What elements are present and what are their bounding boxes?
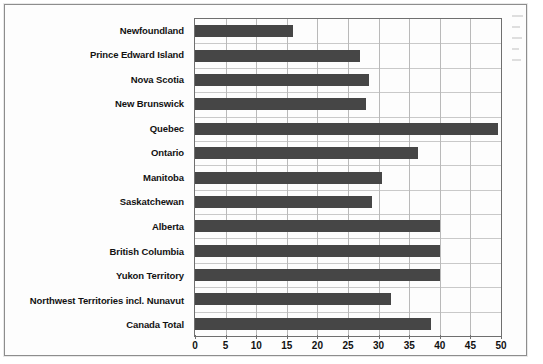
x-tick-label: 30 (373, 340, 384, 351)
x-tick-mark (287, 335, 288, 339)
bar-chart: NewfoundlandPrince Edward IslandNova Sco… (0, 0, 543, 364)
y-axis-label: Ontario (14, 141, 190, 166)
x-tick-mark (440, 335, 441, 339)
x-tick-label: 0 (192, 340, 198, 351)
x-tick-mark (501, 335, 502, 339)
bar-row (195, 239, 501, 263)
bar (195, 318, 431, 330)
bar (195, 196, 372, 208)
y-axis-label: New Brunswick (14, 92, 190, 117)
x-tick-label: 20 (312, 340, 323, 351)
bar-row (195, 263, 501, 287)
x-tick-label: 40 (434, 340, 445, 351)
bar-row (195, 141, 501, 165)
x-tick-mark (256, 335, 257, 339)
y-axis-label: Northwest Territories incl. Nunavut (14, 288, 190, 313)
bar-row (195, 19, 501, 43)
x-tick-label: 45 (465, 340, 476, 351)
bar-row (195, 117, 501, 141)
bar (195, 172, 382, 184)
bar (195, 269, 440, 281)
bar-row (195, 312, 501, 336)
x-tick-label: 50 (495, 340, 506, 351)
x-tick-label: 35 (404, 340, 415, 351)
bar (195, 147, 418, 159)
x-tick-label: 10 (251, 340, 262, 351)
bar (195, 74, 369, 86)
bar-series (195, 19, 501, 336)
y-axis-label: Prince Edward Island (14, 43, 190, 68)
y-axis-label: Manitoba (14, 165, 190, 190)
x-tick-mark (226, 335, 227, 339)
y-axis-label: Quebec (14, 116, 190, 141)
bar-row (195, 190, 501, 214)
bar-row (195, 43, 501, 67)
bar (195, 245, 440, 257)
x-tick-label: 25 (342, 340, 353, 351)
x-tick-mark (195, 335, 196, 339)
x-tick-mark (317, 335, 318, 339)
x-tick-label: 15 (281, 340, 292, 351)
x-tick-mark (379, 335, 380, 339)
y-axis-category-labels: NewfoundlandPrince Edward IslandNova Sco… (14, 18, 190, 337)
x-axis-tick-labels: 05101520253035404550 (194, 338, 503, 358)
bar (195, 50, 360, 62)
x-tick-label: 5 (223, 340, 229, 351)
x-tick-mark (409, 335, 410, 339)
bar (195, 293, 391, 305)
y-axis-label: British Columbia (14, 239, 190, 264)
x-tick-mark (348, 335, 349, 339)
y-axis-label: Newfoundland (14, 18, 190, 43)
bar-row (195, 92, 501, 116)
bar (195, 98, 366, 110)
bar (195, 220, 440, 232)
y-axis-label: Canada Total (14, 312, 190, 337)
plot-area (194, 18, 502, 337)
bar-row (195, 287, 501, 311)
bar-row (195, 165, 501, 189)
y-axis-label: Alberta (14, 214, 190, 239)
bar-row (195, 214, 501, 238)
y-axis-label: Saskatchewan (14, 190, 190, 215)
y-axis-label: Yukon Territory (14, 263, 190, 288)
bar (195, 25, 293, 37)
bar-row (195, 68, 501, 92)
y-axis-label: Nova Scotia (14, 67, 190, 92)
bar (195, 123, 498, 135)
x-tick-mark (470, 335, 471, 339)
